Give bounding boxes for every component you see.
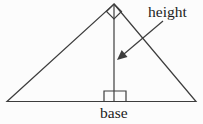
height-pointer-line [124, 21, 163, 54]
diagram-svg: height base [0, 0, 203, 124]
triangle-diagram: height base [0, 0, 203, 124]
base-right-angle-marker [104, 91, 126, 102]
height-label: height [148, 3, 187, 20]
base-label: base [100, 104, 128, 121]
height-pointer-arrowhead-icon [117, 50, 128, 60]
